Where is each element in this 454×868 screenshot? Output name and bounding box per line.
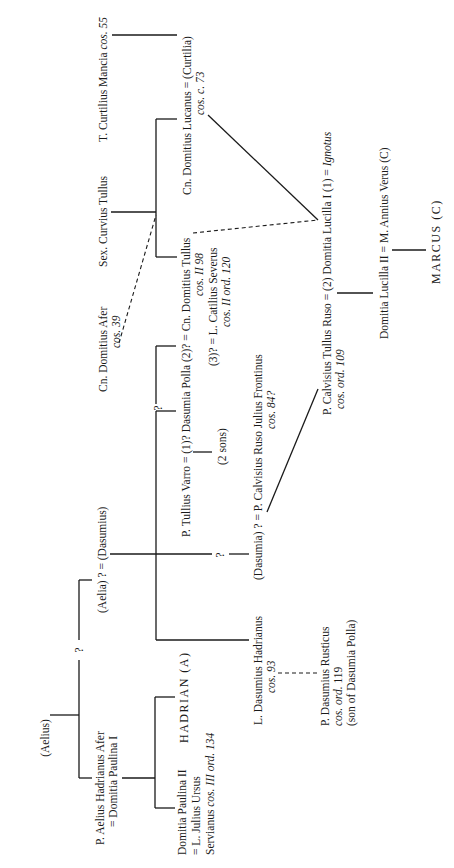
uncertain-mark: ?: [152, 405, 164, 410]
node-calvisius-tullus-lucilla: P. Calvisius Tullus Ruso = (2) Domitia L…: [321, 131, 334, 415]
node-tullius-varro-dasumia-polla: P. Tullius Varro = (1)? Dasumia Polla (2…: [180, 237, 193, 537]
node-catilius-severus: (3)? = L. Catilius Severus: [207, 247, 220, 366]
node-domitia-lucilla-ii-annius-verus: Domitia Lucilla II = M. Annius Verus (C): [378, 147, 391, 339]
stemma-diagram: (Aelius) ? (Aelia) ? = (Dasumius) ? ? P.…: [0, 0, 454, 868]
node-p-dasumius-note: (son of Dasumia Polla): [345, 619, 358, 726]
node-domitia-paulina-ii: Domitia Paulina II: [176, 769, 188, 855]
connector: [208, 115, 318, 220]
connector: [119, 215, 156, 343]
node-calvisius-tullus-cos: cos. ord. 109: [334, 349, 346, 409]
node-hadrian: HADRIAN (A): [177, 652, 191, 744]
node-domitius-lucanus-curtilia: Cn. Domitius Lucanus = (Curtilia): [181, 36, 194, 195]
node-curtilius-mancia: T. Curtilius Mancia cos. 55: [97, 17, 109, 142]
node-domitius-lucanus-cos: cos. c. 73: [194, 71, 206, 115]
node-julius-ursus: = L. Julius Ursus: [190, 776, 202, 855]
connector: [193, 220, 318, 233]
node-domitius-tullus-cos: cos. II 98: [193, 253, 205, 296]
node-aelius: (Aelius): [39, 719, 52, 757]
node-curvius-tullus: Sex. Curvius Tullus: [97, 175, 109, 267]
uncertain-mark: ?: [73, 647, 85, 652]
node-dasumia-calvisius-frontinus: (Dasumia) ? = P. Calvisius Ruso Julius F…: [252, 354, 265, 580]
node-marcus: MARCUS (C): [429, 199, 443, 284]
node-two-sons: (2 sons): [216, 428, 229, 465]
node-domitia-paulina-i: = Domitia Paulina I: [107, 736, 119, 827]
node-calvisius-frontinus-cos: cos. 84?: [265, 390, 277, 429]
node-servianus: Servianus cos. III ord. 134: [204, 733, 216, 855]
node-p-dasumius-rusticus: P. Dasumius Rusticus: [319, 626, 331, 726]
node-aelia-dasumius: (Aelia) ? = (Dasumius): [96, 506, 109, 613]
uncertain-mark: ?: [214, 552, 226, 557]
node-domitius-afer: Cn. Domitius Afer: [97, 307, 109, 392]
node-catilius-cos: cos. II ord. 120: [220, 257, 232, 327]
node-p-aelius-hadrianus-afer: P. Aelius Hadrianus Afer: [94, 731, 106, 845]
node-p-dasumius-cos: cos. ord. 119: [332, 667, 344, 726]
node-domitius-afer-cos: cos. 39: [110, 315, 122, 348]
node-l-dasumius-cos: cos. 93: [265, 660, 277, 693]
node-l-dasumius-hadrianus: L. Dasumius Hadrianus: [252, 616, 264, 725]
